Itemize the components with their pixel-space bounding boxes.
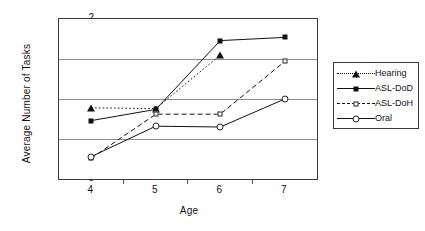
- series-lines: [59, 19, 317, 179]
- legend-item-label: ASL-DoD: [375, 84, 413, 93]
- series-line: [91, 37, 285, 120]
- legend-item-label: Oral: [375, 114, 392, 123]
- data-point-marker: [88, 153, 95, 160]
- legend-sample-icon: [337, 113, 375, 125]
- data-point-marker: [152, 123, 159, 130]
- data-point-marker: [87, 104, 95, 111]
- data-point-marker: [218, 38, 223, 43]
- legend-sample-icon: [337, 83, 375, 95]
- series-line: [91, 61, 285, 158]
- data-point-marker: [282, 59, 287, 64]
- data-point-marker: [217, 124, 224, 131]
- data-point-marker: [281, 96, 288, 103]
- data-point-marker: [216, 52, 224, 59]
- data-point-marker: [153, 112, 158, 117]
- plot-area: [58, 18, 318, 180]
- data-point-marker: [89, 118, 94, 123]
- legend-item-oral: Oral: [337, 111, 392, 126]
- legend-item-hearing: Hearing: [337, 66, 407, 81]
- legend-sample-icon: [337, 98, 375, 110]
- series-line: [91, 55, 220, 109]
- x-tick-label: 7: [269, 184, 299, 195]
- x-tick-label: 6: [204, 184, 234, 195]
- legend-item-label: Hearing: [375, 69, 407, 78]
- chart-figure: Average Number of Tasks Age 00.511.52 45…: [0, 0, 425, 231]
- legend-marker-icon: [354, 101, 359, 106]
- x-tick-mark: [252, 180, 253, 184]
- chart-legend: HearingASL-DoDASL-DoHOral: [333, 62, 419, 129]
- series-line: [91, 99, 285, 157]
- legend-item-label: ASL-DoH: [375, 99, 413, 108]
- x-tick-label: 5: [140, 184, 170, 195]
- legend-item-asl-dod: ASL-DoD: [337, 81, 413, 96]
- legend-marker-icon: [354, 86, 359, 91]
- y-axis-title: Average Number of Tasks: [21, 24, 32, 184]
- legend-item-asl-doh: ASL-DoH: [337, 96, 413, 111]
- legend-sample-icon: [337, 68, 375, 80]
- legend-marker-icon: [352, 70, 360, 77]
- x-tick-mark: [187, 180, 188, 184]
- data-point-marker: [282, 35, 287, 40]
- x-axis-title: Age: [58, 205, 320, 216]
- x-tick-mark: [123, 180, 124, 184]
- data-point-marker: [218, 112, 223, 117]
- legend-marker-icon: [353, 115, 360, 122]
- x-tick-label: 4: [75, 184, 105, 195]
